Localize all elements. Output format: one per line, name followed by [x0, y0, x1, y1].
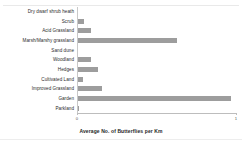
bar-row: Woodland — [5, 55, 237, 64]
category-label: Sand dune — [5, 48, 77, 53]
y-axis-line — [77, 7, 78, 113]
bar-track — [77, 17, 237, 26]
bar-row: Improved Grassland — [5, 84, 237, 93]
bar — [77, 67, 98, 72]
category-label: Cultivated Land — [5, 77, 77, 82]
bar-track — [77, 7, 237, 16]
bar — [77, 57, 91, 62]
x-tick-label-left: 0 — [76, 116, 78, 121]
category-label: Woodland — [5, 57, 77, 62]
x-axis-line — [77, 113, 236, 114]
bar — [77, 96, 231, 101]
category-label: Hedges — [5, 67, 77, 72]
bar-row: Marsh/Marshy grassland — [5, 36, 237, 45]
figure-left-border — [0, 0, 3, 144]
bar-row: Scrub — [5, 17, 237, 26]
bar-row: Cultivated Land — [5, 74, 237, 83]
bar-rows: Dry dwarf shrub heathScrubAcid Grassland… — [5, 7, 237, 113]
category-label: Marsh/Marshy grassland — [5, 38, 77, 43]
bar-row: Dry dwarf shrub heath — [5, 7, 237, 16]
category-label: Acid Grassland — [5, 28, 77, 33]
bar-track — [77, 46, 237, 55]
category-label: Parkland — [5, 106, 77, 111]
figure-top-border — [0, 0, 242, 6]
bar — [77, 38, 177, 43]
bar — [77, 28, 91, 33]
bar-track — [77, 36, 237, 45]
bar-row: Parkland — [5, 103, 237, 112]
bar-track — [77, 103, 237, 112]
category-label: Scrub — [5, 19, 77, 24]
category-label: Improved Grassland — [5, 86, 77, 91]
figure-right-border — [239, 0, 242, 144]
bar-track — [77, 65, 237, 74]
bar-track — [77, 26, 237, 35]
bar-row: Hedges — [5, 65, 237, 74]
bar-track — [77, 74, 237, 83]
category-label: Garden — [5, 96, 77, 101]
bar-row: Acid Grassland — [5, 26, 237, 35]
bar-track — [77, 55, 237, 64]
x-axis-title: Average No. of Butterflies per Km — [5, 128, 237, 134]
bar-chart-figure: Dry dwarf shrub heathScrubAcid Grassland… — [0, 0, 242, 144]
bar-row: Sand dune — [5, 46, 237, 55]
bar — [77, 86, 102, 91]
bar-track — [77, 94, 237, 103]
bar — [77, 19, 84, 24]
bar-track — [77, 84, 237, 93]
category-label: Dry dwarf shrub heath — [5, 9, 77, 14]
x-tick-label-right: 1 — [235, 116, 237, 121]
bar-row: Garden — [5, 94, 237, 103]
figure-bottom-border — [0, 139, 242, 144]
plot-area: Dry dwarf shrub heathScrubAcid Grassland… — [5, 7, 237, 119]
